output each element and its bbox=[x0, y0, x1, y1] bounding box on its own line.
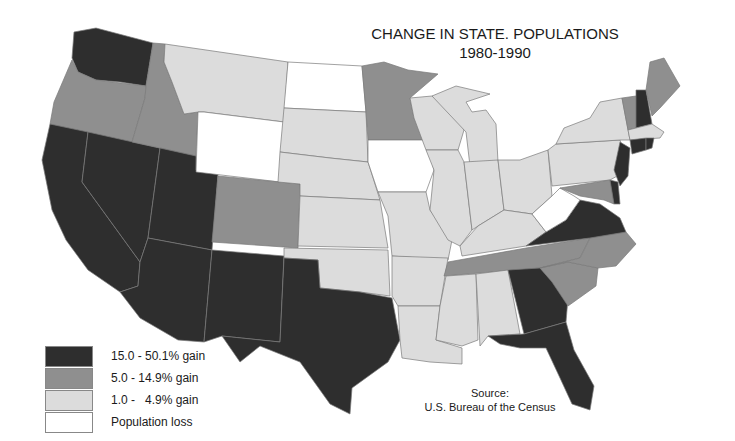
legend-label-loss: Population loss bbox=[111, 415, 192, 429]
state-ct bbox=[630, 138, 646, 154]
map-title: CHANGE IN STATE. POPULATIONS 1980-1990 bbox=[360, 24, 630, 62]
legend-item-mid: 5.0 - 14.9% gain bbox=[45, 367, 205, 389]
source-value: U.S. Bureau of the Census bbox=[405, 400, 575, 414]
legend-label-high: 15.0 - 50.1% gain bbox=[111, 349, 205, 363]
state-co bbox=[212, 176, 300, 248]
legend-item-loss: Population loss bbox=[45, 411, 205, 433]
legend-label-low: 1.0 - 4.9% gain bbox=[111, 393, 198, 407]
legend-swatch-loss bbox=[45, 412, 93, 433]
state-mt bbox=[164, 44, 288, 122]
legend-swatch-low bbox=[45, 390, 93, 411]
state-me bbox=[646, 58, 680, 116]
state-ks bbox=[298, 196, 388, 248]
map-title-line2: 1980-1990 bbox=[360, 43, 630, 62]
state-nd bbox=[284, 62, 366, 112]
legend: 15.0 - 50.1% gain 5.0 - 14.9% gain 1.0 -… bbox=[45, 345, 205, 433]
state-nm bbox=[204, 250, 284, 342]
source-note: Source: U.S. Bureau of the Census bbox=[405, 386, 575, 414]
map-title-line1: CHANGE IN STATE. POPULATIONS bbox=[360, 24, 630, 43]
state-ia bbox=[368, 140, 434, 192]
legend-label-mid: 5.0 - 14.9% gain bbox=[111, 371, 198, 385]
legend-item-high: 15.0 - 50.1% gain bbox=[45, 345, 205, 367]
state-ny bbox=[556, 98, 630, 144]
state-ri bbox=[646, 138, 654, 150]
legend-swatch-mid bbox=[45, 368, 93, 389]
state-ar bbox=[392, 256, 448, 306]
legend-swatch-high bbox=[45, 346, 93, 367]
legend-item-low: 1.0 - 4.9% gain bbox=[45, 389, 205, 411]
source-label: Source: bbox=[405, 386, 575, 400]
state-wy bbox=[196, 112, 284, 182]
